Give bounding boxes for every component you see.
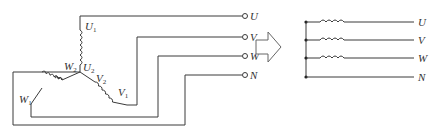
transform-arrow-icon	[256, 32, 281, 62]
output-label-u: U	[418, 16, 427, 28]
label-v2: V2	[96, 72, 107, 86]
terminal-u	[243, 14, 248, 19]
terminal-label-u: U	[250, 10, 259, 22]
terminal-w	[243, 54, 248, 59]
label-w2: W2	[64, 60, 77, 74]
v-wire	[137, 37, 242, 105]
output-label-v: V	[418, 34, 426, 46]
terminal-v	[243, 35, 248, 40]
terminal-n	[243, 73, 248, 78]
label-u1: U1	[85, 20, 97, 34]
w-lead-bottom	[31, 88, 42, 117]
w-lead-top	[62, 72, 80, 80]
output-label-w: W	[418, 52, 428, 64]
label-u2: U2	[83, 61, 95, 75]
u-coil	[320, 20, 344, 22]
label-w1: W1	[19, 93, 32, 107]
output-label-n: N	[417, 71, 426, 83]
terminal-label-n: N	[249, 69, 258, 81]
v-lead-bottom	[113, 102, 138, 105]
u-winding-coil	[80, 30, 82, 65]
equivalent-circuit-diagram: U V W N	[304, 16, 428, 83]
star-winding-diagram: U1 U2 V1 V2 W1 W2 U V W N	[13, 10, 260, 125]
star-connection-diagram: U1 U2 V1 V2 W1 W2 U V W N U V W	[0, 0, 437, 139]
w-coil	[320, 56, 344, 58]
v-coil	[320, 38, 344, 40]
label-v1: V1	[118, 86, 129, 100]
